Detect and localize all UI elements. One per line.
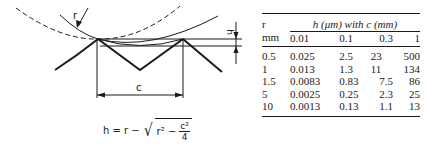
column-header: 1 — [393, 31, 420, 47]
cell: 0.13 — [339, 100, 370, 116]
row-r-value: 1.5 — [262, 75, 290, 88]
cell: 0.25 — [339, 88, 370, 101]
column-header: 0.1 — [339, 31, 370, 47]
span-header: h (μm) with c (mm) — [290, 14, 420, 32]
height-formula: h = r − √ r² − c² 4 — [103, 118, 192, 142]
profile-left — [55, 39, 98, 70]
v-groove — [98, 39, 183, 70]
table-row: 10 0.0013 0.13 1.1 13 — [262, 100, 420, 116]
table-row: 1.5 0.0083 0.83 7.5 86 — [262, 75, 420, 88]
formula-lhs: h = r − — [103, 125, 140, 136]
row-r-value: 0.5 — [262, 47, 290, 63]
sqrt-icon: √ — [144, 120, 153, 140]
profile-right — [183, 39, 222, 72]
table-row: 5 0.0025 0.25 2.3 25 — [262, 88, 420, 101]
cell: 0.0083 — [290, 75, 339, 88]
cell: 500 — [393, 47, 420, 63]
column-header: 0.3 — [371, 31, 393, 47]
cell: 2.5 — [339, 47, 370, 63]
row-header-unit: mm — [262, 31, 290, 47]
row-header-top: r — [262, 14, 290, 32]
table-row: 1 0.013 1.3 11 134 — [262, 63, 420, 76]
tool-radius-diagram: r h c h = r − √ r² − c² 4 — [0, 0, 250, 148]
cell: 7.5 — [371, 75, 393, 88]
cell: 0.025 — [290, 47, 339, 63]
formula-fraction: c² 4 — [179, 121, 190, 142]
radius-label: r — [73, 10, 77, 21]
formula-radicand-start: r² − — [157, 126, 177, 137]
lower-arc — [98, 39, 183, 46]
cell: 0.0025 — [290, 88, 339, 101]
table-header-row-1: r h (μm) with c (mm) — [262, 14, 420, 32]
formula-numerator: c² — [179, 121, 190, 132]
table-row: 0.5 0.025 2.5 23 500 — [262, 47, 420, 63]
height-table-container: r h (μm) with c (mm) mm 0.01 0.1 0.3 1 0… — [262, 13, 420, 117]
dashed-reference-arc — [16, 6, 180, 39]
formula-radicand: r² − c² 4 — [155, 118, 192, 142]
cell: 1.3 — [339, 63, 370, 76]
column-header: 0.01 — [290, 31, 339, 47]
row-r-value: 5 — [262, 88, 290, 101]
cell: 0.013 — [290, 63, 339, 76]
formula-denominator: 4 — [182, 132, 188, 142]
cell: 86 — [393, 75, 420, 88]
row-r-value: 1 — [262, 63, 290, 76]
cell: 25 — [393, 88, 420, 101]
cell: 0.83 — [339, 75, 370, 88]
row-r-value: 10 — [262, 100, 290, 116]
span-header-text: h (μm) with c (mm) — [313, 18, 397, 30]
cell: 13 — [393, 100, 420, 116]
cell: 23 — [371, 47, 393, 63]
chord-label: c — [136, 82, 142, 93]
height-label: h — [225, 29, 235, 35]
cell: 1.1 — [371, 100, 393, 116]
cell: 0.0013 — [290, 100, 339, 116]
height-table: r h (μm) with c (mm) mm 0.01 0.1 0.3 1 0… — [262, 13, 420, 117]
cell: 2.3 — [371, 88, 393, 101]
table-header-row-2: mm 0.01 0.1 0.3 1 — [262, 31, 420, 47]
cell: 134 — [393, 63, 420, 76]
cell: 11 — [371, 63, 393, 76]
